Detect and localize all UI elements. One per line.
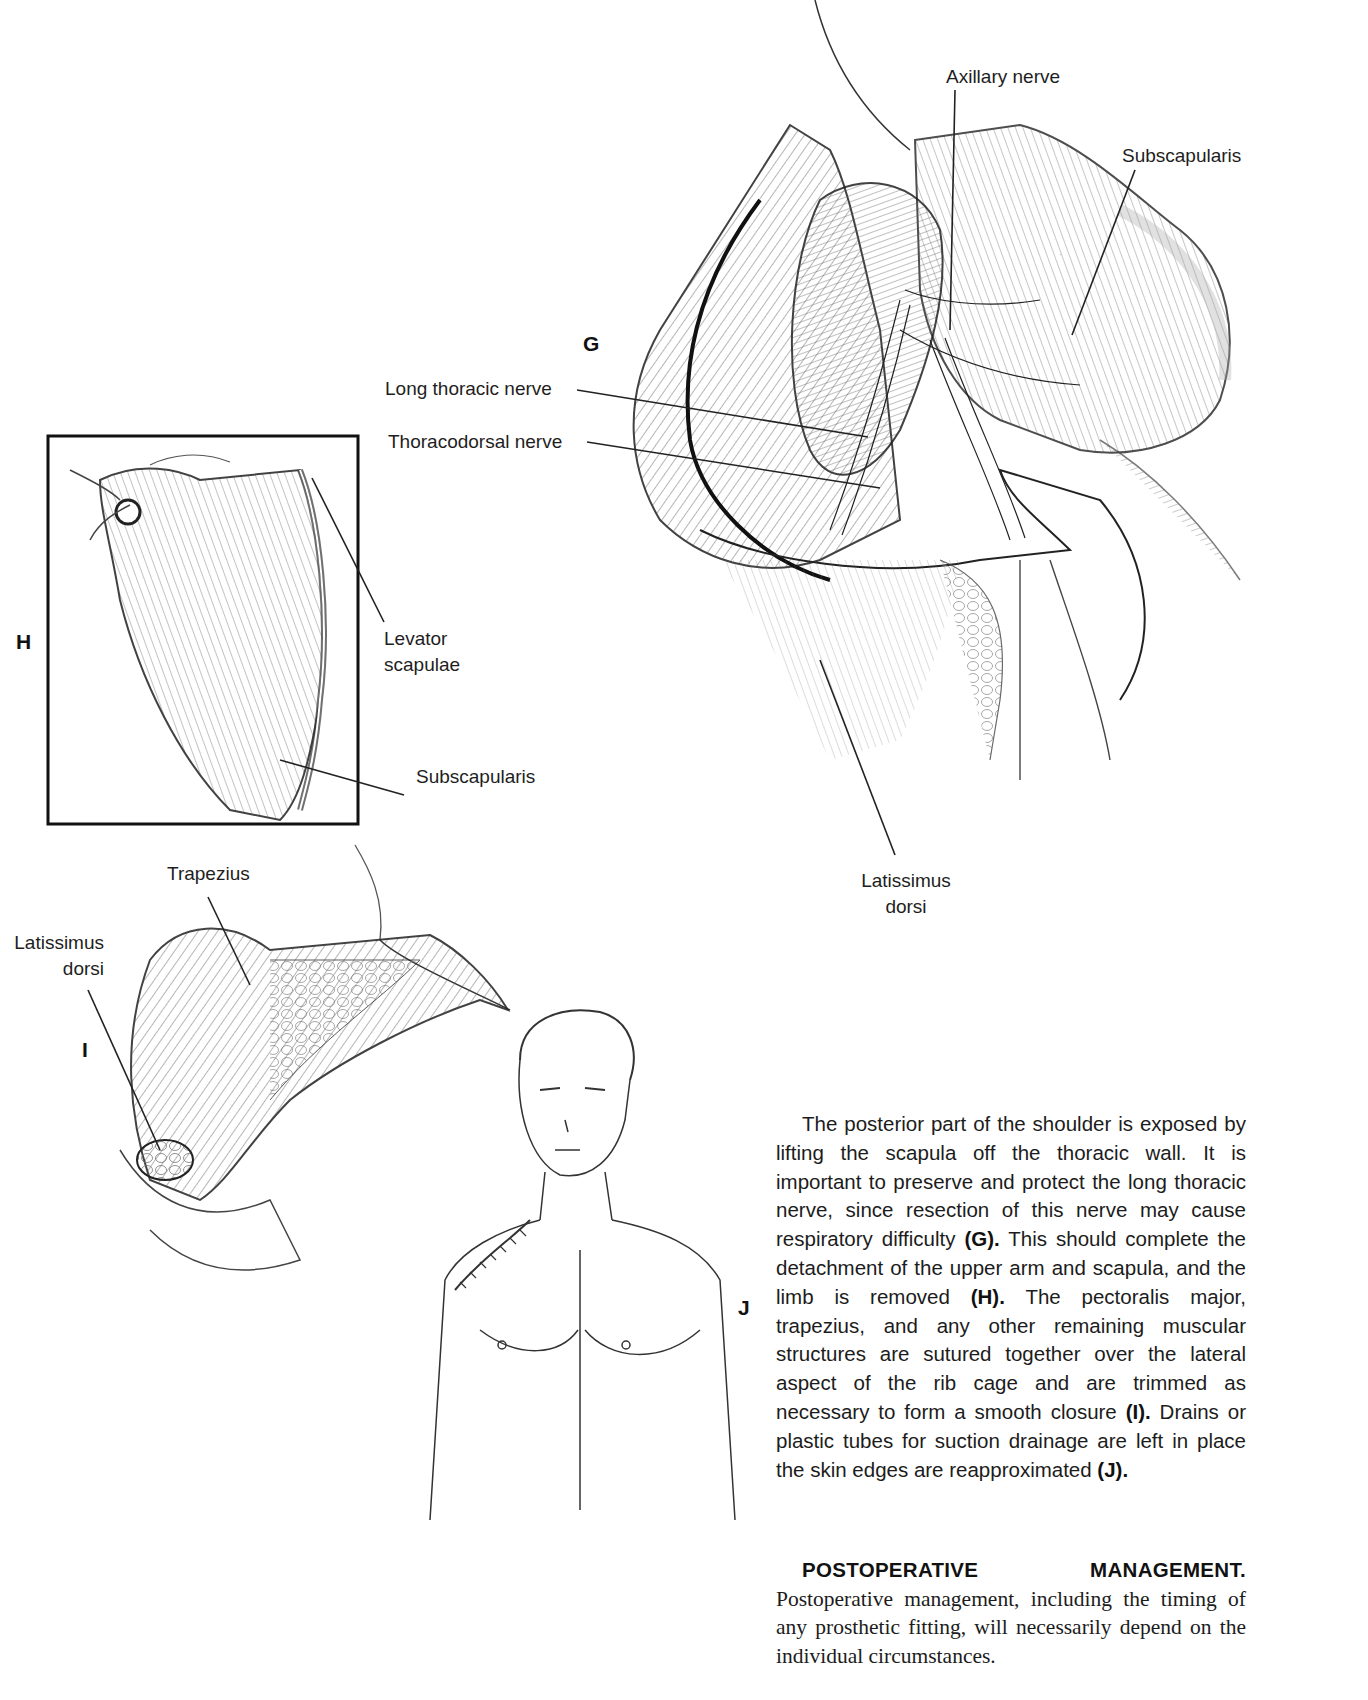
label-subscapularis-g: Subscapularis: [1122, 143, 1241, 169]
figure-j-letter: J: [738, 1296, 750, 1320]
label-latissimus-dorsi-i-line1: Latissimus: [0, 930, 104, 956]
label-levator-scapulae-line1: Levator: [384, 626, 460, 652]
postoperative-management-section: POSTOPERATIVE MANAGEMENT. Postoperative …: [776, 1556, 1246, 1670]
figure-g-letter: G: [583, 332, 599, 356]
label-subscapularis-h: Subscapularis: [416, 764, 535, 790]
label-axillary-nerve: Axillary nerve: [946, 64, 1060, 90]
label-levator-scapulae-line2: scapulae: [384, 652, 460, 678]
section-heading: POSTOPERATIVE MANAGEMENT.: [802, 1558, 1246, 1581]
figure-h-drawing: [70, 455, 324, 820]
figure-ref-i: (I).: [1126, 1400, 1151, 1423]
label-latissimus-dorsi-i-line2: dorsi: [0, 956, 104, 982]
label-latissimus-dorsi-g: Latissimus dorsi: [846, 868, 966, 919]
postoperative-paragraph: POSTOPERATIVE MANAGEMENT. Postoperative …: [776, 1556, 1246, 1670]
figure-i-letter: I: [82, 1038, 88, 1062]
label-levator-scapulae: Levator scapulae: [384, 626, 460, 677]
procedure-description: The posterior part of the shoulder is ex…: [776, 1110, 1246, 1484]
postoperative-text: Postoperative management, including the …: [776, 1587, 1246, 1668]
label-trapezius: Trapezius: [167, 861, 250, 887]
label-latissimus-dorsi-i: Latissimus dorsi: [0, 930, 104, 981]
figure-ref-j: (J).: [1097, 1458, 1128, 1481]
procedure-paragraph: The posterior part of the shoulder is ex…: [776, 1110, 1246, 1484]
figure-ref-g: (G).: [964, 1227, 999, 1250]
figure-h-letter: H: [16, 630, 31, 654]
figure-j-drawing: [430, 1010, 735, 1520]
label-thoracodorsal-nerve: Thoracodorsal nerve: [388, 429, 562, 455]
figure-g-drawing: [634, 0, 1240, 780]
figure-i-drawing: [120, 845, 510, 1270]
label-long-thoracic-nerve: Long thoracic nerve: [385, 376, 552, 402]
label-latissimus-dorsi-g-line2: dorsi: [846, 894, 966, 920]
label-latissimus-dorsi-g-line1: Latissimus: [846, 868, 966, 894]
figure-ref-h: (H).: [971, 1285, 1005, 1308]
